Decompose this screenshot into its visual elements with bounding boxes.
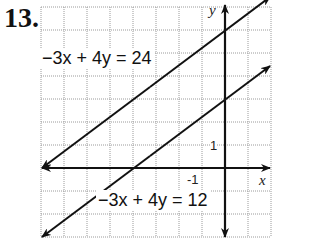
equation-label-24: −3x + 4y = 24 <box>40 48 154 69</box>
x-axis-label: x <box>259 172 266 189</box>
y-axis-label: y <box>209 2 216 19</box>
y-tick-label: 1 <box>210 138 217 153</box>
equation-label-12: −3x + 4y = 12 <box>96 190 210 211</box>
x-tick-label: -1 <box>187 172 199 187</box>
